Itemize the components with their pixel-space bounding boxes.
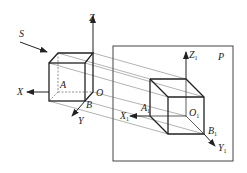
label-z: Z xyxy=(89,13,95,23)
label-o: O xyxy=(96,88,103,98)
label-b: B xyxy=(86,100,92,110)
label-a1: A1 xyxy=(141,103,150,114)
projection-plane-frame xyxy=(113,46,233,161)
label-s: S xyxy=(19,29,24,39)
label-x: X xyxy=(17,87,23,97)
source-cube xyxy=(49,53,93,101)
label-b1: B1 xyxy=(208,126,217,137)
projection-diagram: S Z X Y O A B P Z1 X1 Y1 O1 A1 B1 xyxy=(0,0,247,173)
label-y: Y xyxy=(78,116,84,126)
projection-direction-arrow xyxy=(20,42,47,52)
label-z1: Z1 xyxy=(189,50,198,61)
label-y1: Y1 xyxy=(218,143,227,154)
label-p: P xyxy=(218,52,224,62)
label-a: A xyxy=(60,80,66,90)
label-o1: O1 xyxy=(189,108,199,119)
y-axis xyxy=(72,101,85,116)
label-x1: X1 xyxy=(120,111,129,122)
source-cube-hidden-edges xyxy=(49,53,93,101)
diagram-canvas xyxy=(0,0,247,173)
